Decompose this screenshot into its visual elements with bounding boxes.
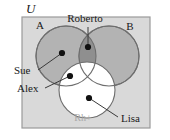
point-sue (59, 50, 65, 56)
set-label-a: A (36, 19, 44, 31)
set-label-rh: Rh+ (74, 112, 92, 123)
universe-label: U (26, 1, 37, 16)
venn-diagram-figure: U A B Rh+ RobertoSueAlexLisa (0, 0, 170, 140)
point-label-roberto: Roberto (67, 12, 103, 24)
set-label-b: B (126, 20, 133, 32)
point-label-lisa: Lisa (121, 112, 140, 124)
venn-diagram-canvas: U A B Rh+ RobertoSueAlexLisa (0, 0, 170, 140)
point-label-sue: Sue (14, 64, 31, 76)
point-roberto (85, 44, 91, 50)
point-alex (67, 73, 73, 79)
point-label-alex: Alex (17, 82, 39, 94)
point-lisa (86, 95, 92, 101)
